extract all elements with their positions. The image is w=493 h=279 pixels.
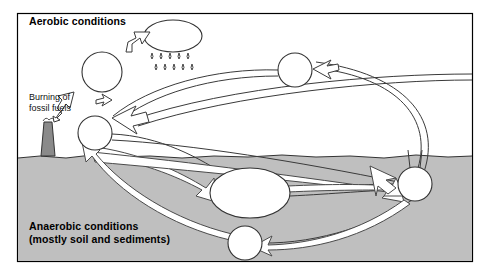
label-anaerobic-conditions: Anaerobic conditions(mostly soil and sed… [29, 220, 170, 245]
rain-cloud [144, 20, 202, 52]
pool-circle-bottom [228, 226, 262, 260]
label-burning-line1: Burning of [29, 92, 70, 102]
pool-circle-surface-left [78, 116, 112, 150]
pool-circle-right [398, 167, 432, 201]
label-anaerobic-line2: (mostly soil and sediments) [29, 233, 170, 245]
label-anaerobic-line1: Anaerobic conditions [29, 220, 138, 232]
label-aerobic-conditions: Aerobic conditions [29, 15, 126, 27]
pool-ellipse-center [210, 168, 290, 218]
pool-circle-upper-left [82, 52, 122, 92]
label-burning-fossil-fuels: Burning offossil fuels [29, 92, 71, 113]
label-burning-line2: fossil fuels [29, 103, 71, 113]
figure-canvas: Aerobic conditions Anaerobic conditions(… [0, 0, 493, 279]
pool-circle-top-right [278, 53, 312, 87]
smokestack-icon [41, 122, 55, 156]
